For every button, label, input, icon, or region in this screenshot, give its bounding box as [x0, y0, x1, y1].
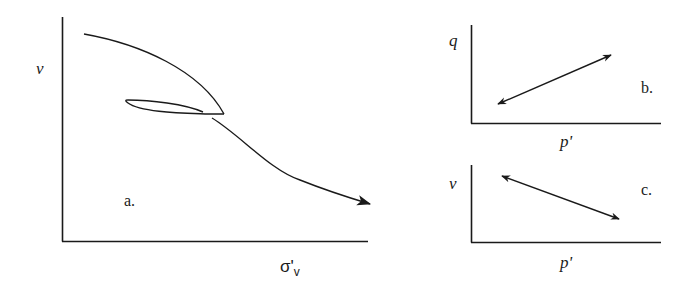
- diagram-canvas: [0, 0, 691, 290]
- panel-b-y-label: q: [449, 32, 458, 49]
- panel-b: [471, 25, 661, 124]
- panel-c-tag: c.: [641, 182, 652, 198]
- panel-c-x-label: p': [560, 254, 572, 271]
- stress-path-arrow-c: [502, 176, 619, 219]
- unload-reload-loop: [126, 100, 224, 114]
- panel-b-x-label: p': [560, 133, 572, 150]
- panel-a-x-label-main: σ': [280, 257, 294, 276]
- panel-a: [62, 17, 370, 242]
- continued-loading-curve: [212, 118, 370, 204]
- panel-c-y-label: ν: [449, 175, 457, 192]
- panel-a-tag: a.: [124, 193, 135, 209]
- stress-path-arrow-b: [498, 55, 611, 104]
- panel-b-tag: b.: [641, 80, 653, 96]
- panel-c: [471, 165, 661, 243]
- panel-a-x-label: σ'v: [280, 258, 300, 278]
- panel-a-y-label: ν: [36, 60, 44, 77]
- panel-a-x-label-sub: v: [294, 265, 300, 279]
